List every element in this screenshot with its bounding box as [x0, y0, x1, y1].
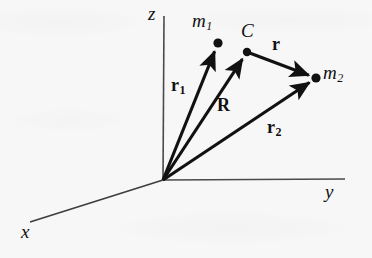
vector-r-arrow — [247, 52, 309, 75]
figure-canvas: z y x m1 C m2 r1 R r2 r — [0, 0, 372, 258]
vector-label-r: r — [272, 35, 280, 53]
point-m1-dot — [213, 38, 222, 47]
point-label-m2: m2 — [323, 63, 343, 84]
point-label-m2-base: m — [323, 62, 337, 83]
vector-label-r2: r2 — [267, 118, 282, 138]
axis-label-x: x — [21, 222, 29, 241]
vector-label-r1: r1 — [171, 76, 186, 96]
axis-label-z: z — [148, 4, 155, 23]
point-label-m1-subscript: 1 — [206, 19, 212, 33]
vector-label-r2-subscript: 2 — [276, 125, 282, 139]
axis-label-y: y — [325, 182, 333, 201]
point-label-m2-subscript: 2 — [337, 71, 343, 85]
vectors-group — [163, 51, 309, 180]
vector-label-r1-base: r — [171, 75, 179, 95]
axis-y-line — [163, 179, 345, 180]
vector-label-R: R — [217, 96, 230, 114]
point-C-dot — [243, 48, 251, 56]
point-label-m1: m1 — [192, 11, 212, 32]
point-label-m1-base: m — [192, 10, 206, 31]
point-label-C: C — [241, 21, 254, 40]
diagram-svg — [0, 0, 372, 258]
axis-z-line — [163, 16, 164, 180]
vector-label-r1-subscript: 1 — [180, 83, 186, 97]
vector-label-r2-base: r — [267, 117, 275, 137]
axis-x-line — [30, 180, 163, 222]
vector-r2-arrow — [163, 83, 309, 181]
point-m2-dot — [311, 73, 320, 82]
